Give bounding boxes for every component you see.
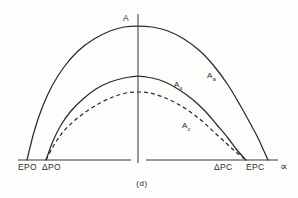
curve-label-middle: As [174, 80, 183, 91]
figure-container: A ∝ EPO ΔPO ΔPC EPC Aa As Ac (d) [0, 0, 298, 198]
y-axis-title: A [123, 13, 129, 23]
curve-dashed [46, 92, 246, 160]
x-tick-label-delta-pc: ΔPC [214, 162, 232, 172]
curve-middle-solid [46, 76, 246, 160]
curve-label-middle-sub: s [180, 85, 183, 91]
curve-label-dashed: Ac [182, 121, 191, 132]
curve-label-dashed-sub: c [188, 126, 191, 132]
x-tick-label-delta-po: ΔPO [42, 162, 61, 172]
x-axis-title: ∝ [280, 160, 288, 172]
x-tick-label-epc: EPC [246, 162, 264, 172]
affinity-curve-chart: A ∝ EPO ΔPO ΔPC EPC Aa As Ac (d) [0, 0, 298, 198]
figure-caption: (d) [136, 179, 147, 188]
curve-label-outer: Aa [207, 71, 217, 82]
curve-label-outer-sub: a [213, 76, 217, 82]
x-tick-label-epo: EPO [18, 162, 37, 172]
